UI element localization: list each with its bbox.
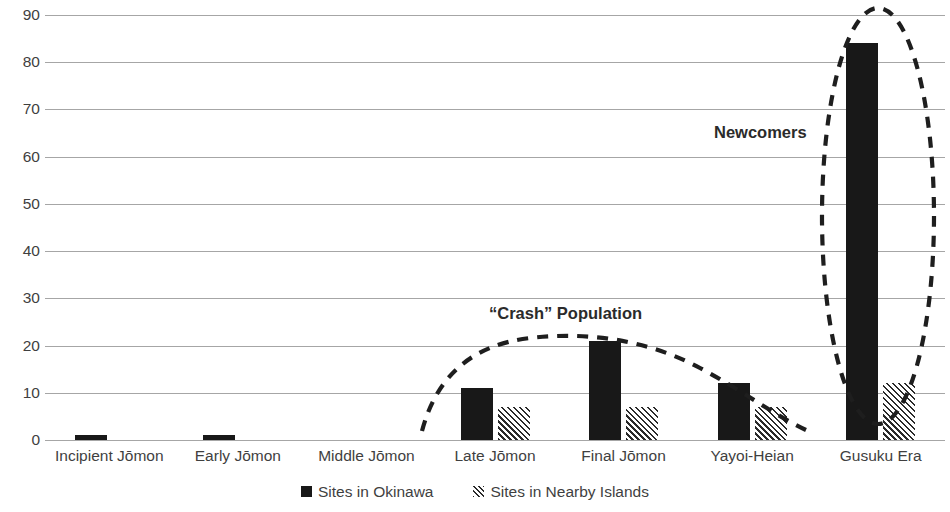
y-tick-label: 60 [4,149,40,165]
bar[interactable] [626,407,658,440]
legend-swatch-solid-icon [301,486,312,497]
bar[interactable] [203,435,235,440]
bar[interactable] [846,43,878,440]
bar[interactable] [755,407,787,440]
bar[interactable] [589,341,621,440]
legend-label: Sites in Nearby Islands [490,484,649,500]
chart-legend: Sites in OkinawaSites in Nearby Islands [0,484,950,500]
y-tick-label: 80 [4,54,40,70]
bar-group [203,15,272,440]
bar[interactable] [498,407,530,440]
y-tick-label: 70 [4,101,40,117]
y-tick-label: 20 [4,338,40,354]
bar-chart: 0102030405060708090 Incipient JōmonEarly… [0,0,950,512]
y-tick-label: 0 [4,432,40,448]
bar-group [461,15,530,440]
bar-group [332,15,401,440]
annotation-crash-population: “Crash” Population [489,305,642,322]
plot-area [45,15,945,440]
bar-group [846,15,915,440]
gridline [45,440,945,441]
bar-group [589,15,658,440]
annotation-newcomers: Newcomers [714,124,807,141]
y-tick-label: 10 [4,385,40,401]
y-tick-label: 30 [4,290,40,306]
x-tick-label: Gusuku Era [791,448,950,464]
y-tick-label: 90 [4,7,40,23]
bar[interactable] [883,383,915,440]
legend-item[interactable]: Sites in Nearby Islands [473,484,649,500]
legend-swatch-hatch-icon [473,486,484,497]
y-axis: 0102030405060708090 [0,0,40,460]
legend-item[interactable]: Sites in Okinawa [301,484,433,500]
bar-group [718,15,787,440]
bar[interactable] [75,435,107,440]
bar[interactable] [718,383,750,440]
bar[interactable] [461,388,493,440]
bar-group [75,15,144,440]
y-tick-label: 40 [4,243,40,259]
legend-label: Sites in Okinawa [318,484,433,500]
y-tick-label: 50 [4,196,40,212]
